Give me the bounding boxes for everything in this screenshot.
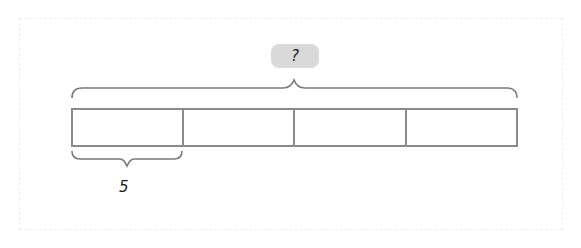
tape-diagram bbox=[0, 0, 581, 248]
total-brace bbox=[72, 80, 517, 98]
segment-value-label: 5 bbox=[119, 178, 129, 196]
segment-brace bbox=[72, 151, 182, 166]
